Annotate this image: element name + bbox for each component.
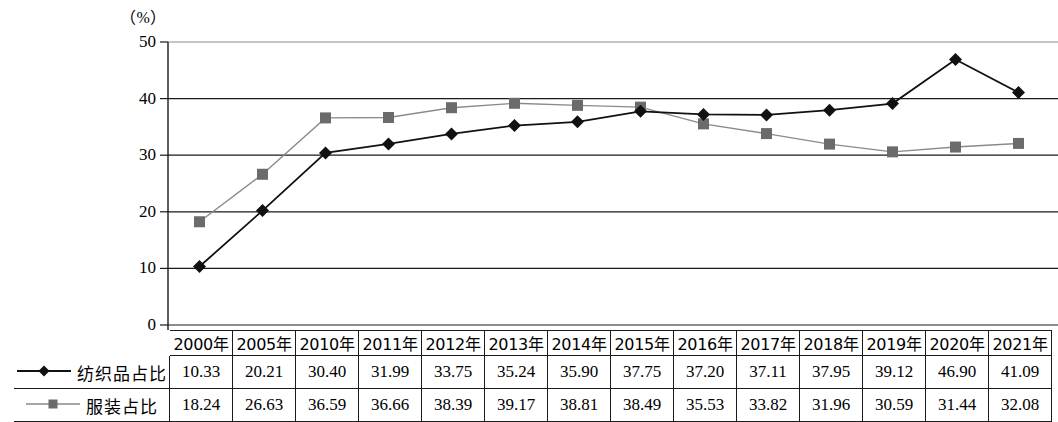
data-point-服装占比-2020年 — [950, 142, 961, 153]
y-tick-label-30: 30 — [116, 146, 156, 163]
data-point-纺织品占比-2020年 — [949, 53, 962, 66]
table-row: 纺织品占比10.3320.2130.4031.9933.7535.2435.90… — [15, 356, 1052, 389]
series-line-纺织品占比 — [200, 60, 1019, 267]
data-point-纺织品占比-2014年 — [571, 115, 584, 128]
table-cell: 39.17 — [485, 389, 548, 422]
legend-label: 纺织品占比 — [77, 360, 167, 385]
table-cell: 38.81 — [548, 389, 611, 422]
table-cell: 32.08 — [989, 389, 1052, 422]
data-point-服装占比-2010年 — [320, 112, 331, 123]
legend-item-纺织品占比[interactable]: 纺织品占比 — [15, 356, 170, 389]
table-col-header-2018年: 2018年 — [800, 331, 863, 356]
table-cell: 31.44 — [926, 389, 989, 422]
table-cell: 46.90 — [926, 356, 989, 389]
data-point-服装占比-2014年 — [572, 100, 583, 111]
table-cell: 36.59 — [296, 389, 359, 422]
y-tick-label-20: 20 — [116, 203, 156, 220]
table-col-header-2011年: 2011年 — [359, 331, 422, 356]
table-cell: 38.49 — [611, 389, 674, 422]
table-cell: 31.96 — [800, 389, 863, 422]
table-cell: 30.40 — [296, 356, 359, 389]
table-cell: 35.24 — [485, 356, 548, 389]
y-tick-label-40: 40 — [116, 90, 156, 107]
data-point-纺织品占比-2021年 — [1012, 86, 1025, 99]
table-col-header-2016年: 2016年 — [674, 331, 737, 356]
table-col-header-2020年: 2020年 — [926, 331, 989, 356]
y-tick-label-10: 10 — [116, 259, 156, 276]
table-cell: 35.90 — [548, 356, 611, 389]
table-cell: 33.75 — [422, 356, 485, 389]
data-point-服装占比-2019年 — [887, 146, 898, 157]
data-point-服装占比-2017年 — [761, 128, 772, 139]
table-col-header-2019年: 2019年 — [863, 331, 926, 356]
data-point-纺织品占比-2017年 — [760, 108, 773, 121]
data-point-服装占比-2018年 — [824, 139, 835, 150]
data-point-服装占比-2013年 — [509, 98, 520, 109]
table-cell: 10.33 — [170, 356, 233, 389]
table-col-header-2017年: 2017年 — [737, 331, 800, 356]
diamond-marker-icon — [17, 362, 71, 382]
table-cell: 31.99 — [359, 356, 422, 389]
table-corner-cell — [15, 331, 170, 356]
table-col-header-2012年: 2012年 — [422, 331, 485, 356]
legend-item-服装占比[interactable]: 服装占比 — [15, 389, 170, 422]
data-point-纺织品占比-2018年 — [823, 104, 836, 117]
table-col-header-2021年: 2021年 — [989, 331, 1052, 356]
y-tick-label-50: 50 — [116, 33, 156, 50]
table-cell: 37.20 — [674, 356, 737, 389]
table-cell: 26.63 — [233, 389, 296, 422]
chart-plot-area: 01020304050 — [0, 0, 1058, 330]
data-point-服装占比-2011年 — [383, 112, 394, 123]
table-cell: 37.11 — [737, 356, 800, 389]
table-cell: 37.75 — [611, 356, 674, 389]
table-header-row: 2000年2005年2010年2011年2012年2013年2014年2015年… — [15, 331, 1052, 356]
data-table: 2000年2005年2010年2011年2012年2013年2014年2015年… — [14, 330, 1052, 422]
table-col-header-2014年: 2014年 — [548, 331, 611, 356]
table-cell: 35.53 — [674, 389, 737, 422]
table-cell: 38.39 — [422, 389, 485, 422]
data-point-纺织品占比-2012年 — [445, 127, 458, 140]
table-cell: 36.66 — [359, 389, 422, 422]
table-header: 2000年2005年2010年2011年2012年2013年2014年2015年… — [15, 331, 1052, 356]
table-row: 服装占比18.2426.6336.5936.6638.3939.1738.813… — [15, 389, 1052, 422]
data-point-服装占比-2005年 — [257, 169, 268, 180]
table-cell: 30.59 — [863, 389, 926, 422]
data-point-服装占比-2021年 — [1013, 138, 1024, 149]
table-cell: 20.21 — [233, 356, 296, 389]
table-body: 纺织品占比10.3320.2130.4031.9933.7535.2435.90… — [15, 356, 1052, 422]
data-point-纺织品占比-2011年 — [382, 137, 395, 150]
table-cell: 39.12 — [863, 356, 926, 389]
legend-label: 服装占比 — [86, 393, 158, 418]
square-marker-icon — [26, 395, 80, 415]
data-point-服装占比-2012年 — [446, 102, 457, 113]
table-cell: 33.82 — [737, 389, 800, 422]
table-cell: 18.24 — [170, 389, 233, 422]
table-cell: 37.95 — [800, 356, 863, 389]
table-col-header-2015年: 2015年 — [611, 331, 674, 356]
line-chart-svg — [0, 0, 1058, 330]
table-col-header-2000年: 2000年 — [170, 331, 233, 356]
data-point-纺织品占比-2013年 — [508, 119, 521, 132]
data-point-服装占比-2000年 — [194, 216, 205, 227]
table-col-header-2005年: 2005年 — [233, 331, 296, 356]
table-col-header-2013年: 2013年 — [485, 331, 548, 356]
table-col-header-2010年: 2010年 — [296, 331, 359, 356]
table-cell: 41.09 — [989, 356, 1052, 389]
